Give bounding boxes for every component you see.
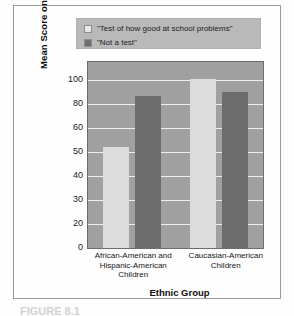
- x-axis-category: African-American andHispanic-AmericanChi…: [87, 251, 180, 285]
- x-axis-category-line: Children: [180, 261, 273, 271]
- chart-legend: "Test of how good at school problems" "N…: [76, 18, 261, 49]
- scanned-page: "Test of how good at school problems" "N…: [0, 0, 294, 316]
- y-axis-tick-label: 60: [73, 122, 83, 132]
- legend-item-label: "Test of how good at school problems": [97, 24, 233, 33]
- gridline: [88, 80, 263, 81]
- y-axis-tick-label: 80: [73, 98, 83, 108]
- bar-chart: Mean Score on Verbal Tasks 1008060504030…: [46, 61, 264, 249]
- y-axis-tick-label: 0: [78, 242, 83, 252]
- x-axis-category-line: Hispanic-American: [87, 261, 180, 271]
- y-axis-tick-label: 40: [73, 170, 83, 180]
- legend-item: "Test of how good at school problems": [84, 22, 260, 35]
- light-swatch-icon: [84, 25, 92, 33]
- x-axis-category-line: Caucasian-American: [180, 251, 273, 261]
- bar: [135, 96, 161, 248]
- bar: [222, 92, 248, 248]
- legend-item: "Not a test": [84, 36, 260, 49]
- figure-frame: "Test of how good at school problems" "N…: [13, 5, 281, 299]
- y-axis-ticks: 1008060504030200: [57, 61, 85, 249]
- x-axis-category-line: African-American and: [87, 251, 180, 261]
- x-axis-category-line: Children: [87, 270, 180, 280]
- figure-caption: FIGURE 8.1: [20, 305, 280, 316]
- y-axis-tick-label: 100: [68, 74, 83, 84]
- bar: [190, 79, 216, 248]
- bar: [103, 147, 129, 248]
- x-axis-title: Ethnic Group: [87, 287, 272, 298]
- y-axis-tick-label: 20: [73, 218, 83, 228]
- y-axis-tick-label: 30: [73, 194, 83, 204]
- dark-swatch-icon: [84, 39, 92, 47]
- y-axis-tick-label: 50: [73, 146, 83, 156]
- x-axis-category: Caucasian-AmericanChildren: [180, 251, 273, 285]
- y-axis-title: Mean Score on Verbal Tasks: [38, 0, 49, 69]
- x-axis-category-labels: African-American andHispanic-AmericanChi…: [87, 251, 272, 285]
- plot-area: [87, 61, 264, 249]
- legend-item-label: "Not a test": [97, 38, 137, 47]
